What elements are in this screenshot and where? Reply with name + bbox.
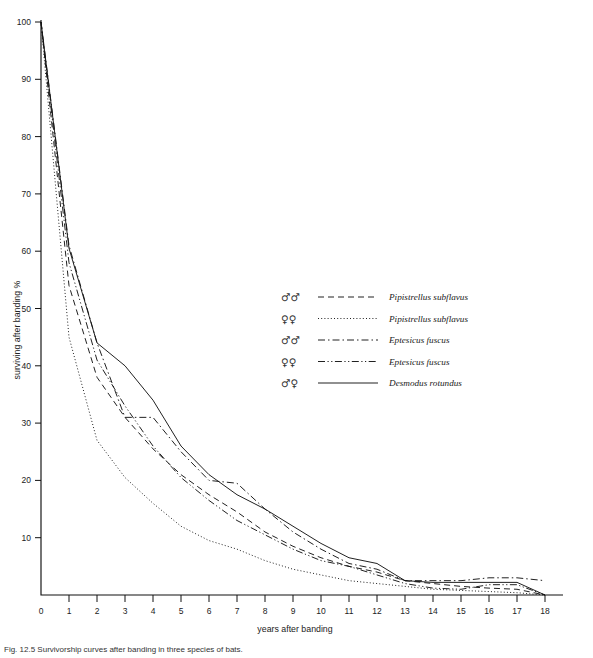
x-tick-label: 15 xyxy=(456,606,466,616)
x-tick-label: 0 xyxy=(39,606,44,616)
x-tick-label: 13 xyxy=(400,606,410,616)
y-axis-ticks: 102030405060708090100 xyxy=(17,17,41,543)
series-group xyxy=(41,22,545,595)
x-tick-label: 2 xyxy=(95,606,100,616)
y-tick-label: 30 xyxy=(22,418,32,428)
x-tick-label: 18 xyxy=(540,606,550,616)
y-tick-label: 10 xyxy=(22,533,32,543)
x-tick-label: 16 xyxy=(484,606,494,616)
y-tick-label: 50 xyxy=(22,304,32,314)
x-tick-label: 1 xyxy=(67,606,72,616)
x-tick-label: 11 xyxy=(345,606,354,616)
x-tick-label: 17 xyxy=(512,606,522,616)
x-tick-label: 4 xyxy=(151,606,156,616)
x-tick-label: 9 xyxy=(291,606,296,616)
legend-sex-symbol-4: ♀♀ xyxy=(281,356,296,368)
axis-lines xyxy=(41,20,563,595)
legend-sex-symbol-3: ♂♂ xyxy=(281,334,300,346)
series-line-1 xyxy=(41,22,545,595)
x-tick-label: 3 xyxy=(123,606,128,616)
y-tick-label: 20 xyxy=(22,475,32,485)
x-tick-label: 10 xyxy=(316,606,326,616)
legend-label-1: Pipistrellus subflavus xyxy=(388,292,468,302)
y-tick-label: 80 xyxy=(22,132,32,142)
x-tick-label: 5 xyxy=(179,606,184,616)
y-tick-label: 100 xyxy=(17,17,31,27)
legend-label-2: Pipistrellus subflavus xyxy=(388,314,468,324)
x-axis-ticks: 0123456789101112131415161718 xyxy=(39,595,550,616)
legend-group: ♂♂Pipistrellus subflavus♀♀Pipistrellus s… xyxy=(281,291,468,389)
x-tick-label: 6 xyxy=(207,606,212,616)
legend-label-5: Desmodus rotundus xyxy=(388,378,462,388)
series-line-2 xyxy=(41,22,545,595)
legend-label-3: Eptesicus fuscus xyxy=(388,335,450,345)
legend-sex-symbol-2: ♀♀ xyxy=(281,313,296,325)
y-tick-label: 70 xyxy=(22,189,32,199)
legend-sex-symbol-1: ♂♂ xyxy=(281,291,300,303)
y-tick-label: 90 xyxy=(22,74,32,84)
figure-caption: Fig. 12.5 Survivorship curves after band… xyxy=(4,645,589,658)
x-tick-label: 8 xyxy=(263,606,268,616)
y-tick-label: 60 xyxy=(22,246,32,256)
x-axis-label: years after banding xyxy=(257,624,332,634)
axes-group xyxy=(41,20,563,595)
legend-label-4: Eptesicus fuscus xyxy=(388,357,450,367)
x-tick-label: 7 xyxy=(235,606,240,616)
y-axis-label: surviving after banding % xyxy=(12,280,22,379)
x-tick-label: 12 xyxy=(372,606,382,616)
x-tick-label: 14 xyxy=(428,606,438,616)
series-line-4 xyxy=(41,22,545,595)
series-line-5 xyxy=(41,22,545,595)
legend-sex-symbol-5: ♂♀ xyxy=(281,377,298,389)
y-tick-label: 40 xyxy=(22,361,32,371)
